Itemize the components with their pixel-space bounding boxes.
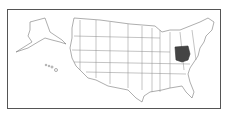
state-ohio [175, 46, 190, 62]
state-hawaii [45, 64, 57, 71]
state-alaska [16, 18, 66, 52]
us-map [0, 0, 229, 120]
